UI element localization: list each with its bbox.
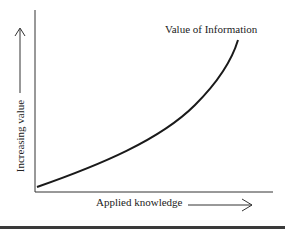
y-axis-label: Increasing value xyxy=(14,100,26,172)
x-axis-label: Applied knowledge xyxy=(96,196,182,208)
bottom-rule xyxy=(0,226,285,229)
value-curve xyxy=(37,40,238,187)
curve-label: Value of Information xyxy=(165,23,257,35)
